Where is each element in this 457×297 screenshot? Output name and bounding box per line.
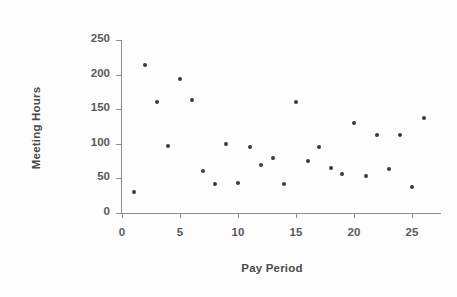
data-point (236, 181, 240, 185)
x-axis-title: Pay Period (122, 262, 422, 274)
y-tick-mark (116, 178, 122, 179)
data-point (352, 121, 356, 125)
plot-area: 0501001502002500510152025 (0, 0, 457, 297)
data-point (340, 172, 344, 176)
y-axis-line (121, 40, 122, 214)
data-point (410, 185, 414, 189)
data-point (143, 63, 147, 67)
x-tick-label: 20 (334, 226, 374, 238)
data-point (294, 100, 298, 104)
data-point (364, 174, 368, 178)
y-tick-label: 100 (66, 136, 110, 148)
data-point (282, 182, 286, 186)
data-point (201, 169, 205, 173)
data-point (155, 100, 159, 104)
data-point (398, 133, 402, 137)
data-point (248, 145, 252, 149)
x-tick-mark (412, 213, 413, 218)
data-point (178, 77, 182, 81)
data-point (306, 159, 310, 163)
scatter-plot-figure: 0501001502002500510152025 Meeting Hours … (0, 0, 457, 297)
data-point (317, 145, 321, 149)
data-point (132, 190, 136, 194)
data-point (259, 163, 263, 167)
x-tick-mark (238, 213, 239, 218)
data-point (375, 133, 379, 137)
data-point (213, 182, 217, 186)
data-point (224, 142, 228, 146)
y-tick-label: 250 (66, 32, 110, 44)
x-tick-label: 15 (276, 226, 316, 238)
y-tick-label: 150 (66, 101, 110, 113)
y-tick-mark (116, 109, 122, 110)
x-tick-mark (354, 213, 355, 218)
y-tick-label: 50 (66, 170, 110, 182)
y-tick-label: 0 (66, 205, 110, 217)
y-axis-title: Meeting Hours (30, 68, 54, 188)
x-tick-label: 25 (392, 226, 432, 238)
y-tick-label: 200 (66, 67, 110, 79)
x-tick-label: 10 (218, 226, 258, 238)
data-point (422, 116, 426, 120)
data-point (387, 167, 391, 171)
x-tick-mark (180, 213, 181, 218)
data-point (271, 156, 275, 160)
y-tick-mark (116, 75, 122, 76)
data-point (190, 98, 194, 102)
x-tick-mark (296, 213, 297, 218)
data-point (329, 166, 333, 170)
x-axis-line (116, 213, 441, 214)
y-tick-mark (116, 144, 122, 145)
x-tick-label: 5 (160, 226, 200, 238)
x-tick-mark (122, 213, 123, 218)
y-tick-mark (116, 40, 122, 41)
x-tick-label: 0 (102, 226, 142, 238)
data-point (166, 144, 170, 148)
